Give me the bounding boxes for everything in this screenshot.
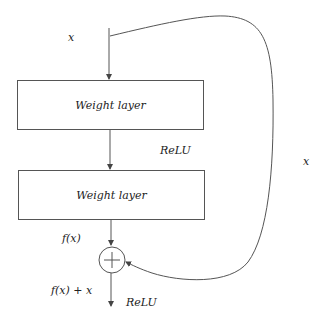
input-label: x bbox=[68, 31, 74, 44]
weight-layer-1: Weight layer bbox=[17, 80, 204, 130]
sum-label: f(x) + x bbox=[51, 284, 92, 297]
skip-connection bbox=[110, 16, 273, 280]
diagram-lines bbox=[0, 0, 327, 321]
relu-label-1: ReLU bbox=[160, 144, 191, 157]
relu-label-2: ReLU bbox=[126, 296, 157, 309]
weight-layer-2: Weight layer bbox=[18, 170, 205, 220]
fx-label: f(x) bbox=[62, 232, 81, 245]
skip-label: x bbox=[303, 155, 309, 168]
